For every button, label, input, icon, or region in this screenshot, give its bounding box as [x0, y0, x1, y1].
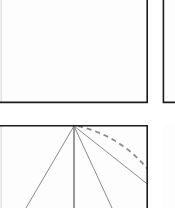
figure-svg	[0, 0, 175, 208]
panel-top-left	[0, 0, 148, 103]
panel-top-left-background	[0, 0, 148, 103]
panel-bottom-right-background	[163, 125, 175, 208]
panel-bottom-left	[0, 125, 169, 208]
panel-top-right	[163, 0, 175, 103]
figure-canvas	[0, 0, 175, 208]
panel-top-right-background	[163, 0, 175, 103]
